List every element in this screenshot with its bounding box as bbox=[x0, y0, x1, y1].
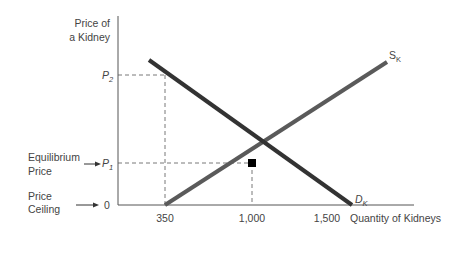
supply-label: SK bbox=[389, 49, 401, 64]
equilibrium-point bbox=[248, 159, 256, 167]
demand-label: DK bbox=[355, 193, 369, 208]
price-ceiling-label-line2: Ceiling bbox=[28, 203, 60, 215]
demand-curve bbox=[149, 60, 352, 205]
equilibrium-price-label-line1: Equilibrium bbox=[28, 151, 80, 163]
x-tick-350: 350 bbox=[156, 212, 174, 224]
p1-label: P1 bbox=[102, 157, 113, 172]
p2-label: P2 bbox=[102, 69, 114, 84]
y-axis-label-line1: Price of bbox=[74, 17, 110, 29]
kidney-market-chart: Price of a Kidney P2 P1 0 Equilibrium Pr… bbox=[0, 0, 470, 260]
x-tick-1000: 1,000 bbox=[239, 212, 265, 224]
equilibrium-arrowhead-icon bbox=[95, 162, 101, 167]
y-axis-label-line2: a Kidney bbox=[69, 31, 111, 43]
zero-label: 0 bbox=[104, 199, 110, 211]
price-ceiling-arrowhead-icon bbox=[93, 203, 99, 208]
x-tick-1500: 1,500 bbox=[314, 212, 340, 224]
supply-curve bbox=[165, 62, 387, 205]
x-axis-label: Quantity of Kidneys bbox=[350, 212, 441, 224]
price-ceiling-label-line1: Price bbox=[28, 190, 52, 202]
equilibrium-price-label-line2: Price bbox=[28, 165, 52, 177]
